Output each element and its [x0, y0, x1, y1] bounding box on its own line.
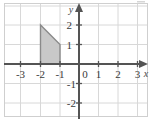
y-tick-label-neg1: -1 [67, 78, 76, 90]
x-tick-label-3: 3 [135, 68, 141, 80]
x-tick-label-neg3: -3 [16, 68, 26, 80]
coordinate-plane-svg: -3 -2 -1 1 2 3 0 2 1 -1 -2 x y [0, 0, 158, 124]
y-tick-label-1: 1 [67, 39, 73, 51]
x-axis-label: x [143, 68, 149, 79]
x-tick-label-neg2: -2 [36, 68, 45, 80]
y-axis-label: y [68, 4, 74, 15]
y-tick-label-2: 2 [67, 19, 73, 31]
x-tick-label-neg1: -1 [55, 68, 64, 80]
x-tick-label-2: 2 [115, 68, 121, 80]
origin-label: 0 [82, 68, 88, 80]
y-tick-label-neg2: -2 [67, 97, 76, 109]
scan-artifact-mark [137, 1, 145, 3]
coordinate-plane-figure: -3 -2 -1 1 2 3 0 2 1 -1 -2 x y [0, 0, 158, 124]
x-tick-label-1: 1 [96, 68, 102, 80]
